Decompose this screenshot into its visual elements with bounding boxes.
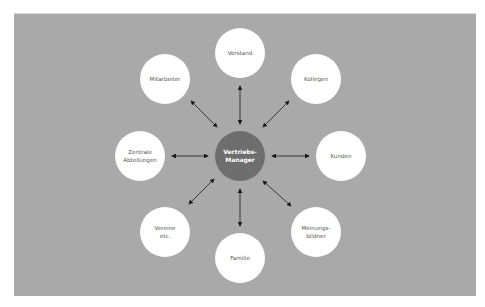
node-familie: Familie xyxy=(215,233,265,283)
arrow-mitarbeiter xyxy=(191,101,217,127)
node-mitarbeiter: Mitarbeiter xyxy=(140,54,190,104)
node-zentrale-abteilungen: Zentrale Abteilungen xyxy=(115,131,165,181)
arrow-meinungsbildner xyxy=(263,181,291,206)
node-vereine: Vereine etc. xyxy=(140,207,190,257)
arrow-kollegen xyxy=(263,101,289,127)
node-kollegen: Kollegen xyxy=(291,54,341,104)
arrow-vereine xyxy=(189,179,214,204)
node-kunden: Kunden xyxy=(316,131,366,181)
node-vorstand: Vorstand xyxy=(215,28,265,78)
node-center-vertriebs-manager: Vertriebs- Manager xyxy=(215,131,265,181)
node-meinungsbildner: Meinungs- bildner xyxy=(291,207,341,257)
